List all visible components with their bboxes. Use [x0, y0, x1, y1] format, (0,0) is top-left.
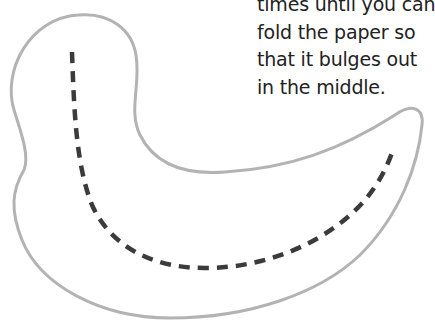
- instruction-line-4: in the middle.: [257, 74, 432, 102]
- instruction-line-1: times until you can: [257, 0, 432, 19]
- instruction-text: times until you can fold the paper so th…: [257, 0, 432, 101]
- instruction-line-3: that it bulges out: [257, 46, 432, 74]
- instruction-line-2: fold the paper so: [257, 19, 432, 47]
